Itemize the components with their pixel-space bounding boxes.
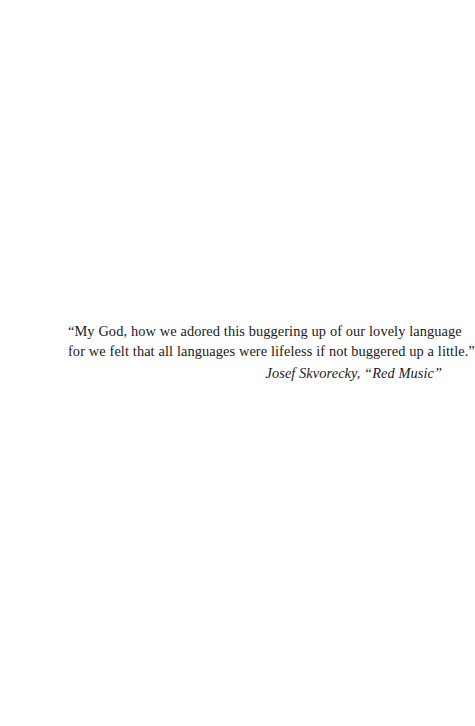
- epigraph-block: “My God, how we adored this buggering up…: [68, 321, 442, 383]
- epigraph-attribution: Josef Skvorecky, “Red Music”: [68, 363, 442, 383]
- epigraph-quote-line-2: for we felt that all languages were life…: [68, 341, 442, 361]
- epigraph-quote-text: “My God, how we adored this buggering up…: [68, 321, 442, 361]
- epigraph-quote-line-1: “My God, how we adored this buggering up…: [68, 321, 442, 341]
